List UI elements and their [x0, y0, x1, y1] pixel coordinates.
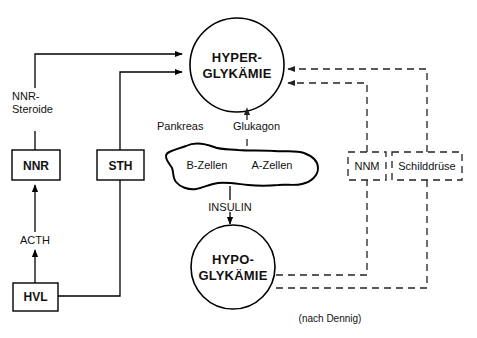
node-label-schilddruese: Schilddrüse [398, 160, 455, 172]
node-circle-hyperglykaemie[interactable] [190, 18, 284, 112]
edge-nnr-steroide-to-hyperglykaemie [35, 54, 182, 88]
node-label-hyperglykaemie-line1: HYPER- [212, 50, 262, 65]
node-label-hyperglykaemie-line2: GLYKÄMIE [202, 66, 271, 81]
node-label-hypoglykaemie-line1: HYPO- [212, 252, 254, 267]
diagram-caption: (nach Dennig) [299, 313, 362, 324]
edge-sth-to-hyperglykaemie [120, 72, 182, 150]
node-label-nnr-steroide-line1: NNR- [12, 90, 40, 102]
edge-hypoglykaemie-to-schilddruese [276, 180, 427, 288]
node-label-glukagon: Glukagon [233, 120, 280, 132]
node-circle-hypoglykaemie[interactable] [191, 225, 275, 309]
node-label-acth: ACTH [20, 234, 50, 246]
node-label-nnm: NNM [354, 160, 379, 172]
endocrine-glucose-regulation-diagram: NNR STH HVL NNR- Steroide ACTH HYPER- GL… [0, 0, 477, 338]
node-label-pankreas: Pankreas [157, 120, 204, 132]
node-label-a-zellen: A-Zellen [252, 159, 293, 171]
edge-hvl-to-sth [58, 180, 120, 296]
node-label-insulin: INSULIN [208, 201, 251, 213]
edge-nnm-to-hyperglykaemie [288, 83, 367, 152]
edge-schilddruese-to-hyperglykaemie [288, 69, 427, 152]
node-label-b-zellen: B-Zellen [187, 159, 228, 171]
node-label-sth: STH [109, 159, 133, 173]
edge-hypoglykaemie-to-nnm [276, 180, 367, 275]
node-label-nnr: NNR [23, 159, 49, 173]
node-label-hypoglykaemie-line2: GLYKÄMIE [198, 268, 267, 283]
node-label-hvl: HVL [24, 290, 48, 304]
diagram-canvas: NNR STH HVL NNR- Steroide ACTH HYPER- GL… [0, 0, 477, 338]
node-label-nnr-steroide-line2: Steroide [12, 103, 53, 115]
